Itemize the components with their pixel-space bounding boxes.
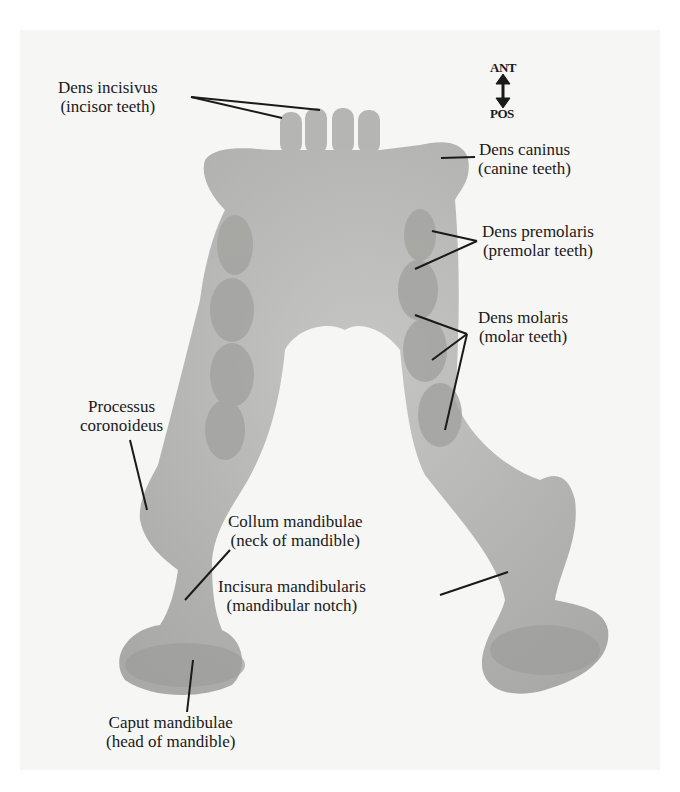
left-condyle (125, 643, 245, 687)
label-common: (molar teeth) (478, 327, 568, 346)
label-dens-incisivus: Dens incisivus (incisor teeth) (58, 78, 158, 116)
label-common: (canine teeth) (478, 159, 571, 178)
label-latin: Dens incisivus (58, 78, 158, 97)
label-latin: Collum mandibulae (228, 512, 363, 531)
label-latin: Dens premolaris (482, 222, 594, 241)
label-latin: Processus (80, 397, 163, 416)
label-processus-coronoideus: Processus coronoideus (80, 397, 163, 435)
label-latin: Caput mandibulae (106, 713, 235, 732)
label-common: (neck of mandible) (228, 531, 363, 550)
label-latin: Dens molaris (478, 308, 568, 327)
orientation-posterior: POS (490, 106, 514, 122)
right-condyle (490, 625, 600, 675)
label-incisura-mandibularis: Incisura mandibularis (mandibular notch) (218, 577, 366, 615)
label-common: (mandibular notch) (218, 596, 366, 615)
label-dens-premolaris: Dens premolaris (premolar teeth) (482, 222, 594, 260)
label-dens-caninus: Dens caninus (canine teeth) (478, 140, 571, 178)
orientation-arrow-icon (496, 74, 510, 108)
label-collum-mandibulae: Collum mandibulae (neck of mandible) (228, 512, 363, 550)
label-common: (premolar teeth) (482, 241, 594, 260)
label-common: coronoideus (80, 416, 163, 435)
mandible-illustration (0, 0, 680, 792)
label-dens-molaris: Dens molaris (molar teeth) (478, 308, 568, 346)
orientation-anterior: ANT (490, 60, 516, 76)
label-latin: Dens caninus (478, 140, 571, 159)
mandible-diagram: ANT POS Dens incisivus (incisor teeth) D… (0, 0, 680, 792)
label-latin: Incisura mandibularis (218, 577, 366, 596)
label-common: (head of mandible) (106, 732, 235, 751)
label-common: (incisor teeth) (58, 97, 158, 116)
incisor-teeth (280, 108, 380, 154)
label-caput-mandibulae: Caput mandibulae (head of mandible) (106, 713, 235, 751)
